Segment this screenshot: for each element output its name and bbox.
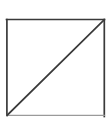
square-diagonal-figure [0,0,112,122]
background-plate [0,0,112,122]
figure-canvas: Square outline divided by a diagonal lin… [0,0,112,122]
